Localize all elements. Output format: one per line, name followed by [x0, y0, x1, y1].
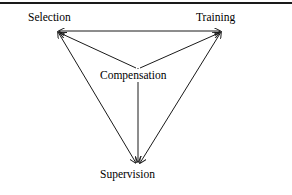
edge-selection-supervision [58, 32, 136, 163]
triangle-diagram-svg [0, 0, 292, 195]
edge-compensation-training [140, 33, 219, 68]
edge-compensation-selection [60, 33, 136, 68]
node-label-training: Training [196, 11, 235, 24]
edge-training-supervision [140, 32, 221, 163]
node-label-compensation: Compensation [99, 69, 167, 82]
figure-container: Selection Training Compensation Supervis… [0, 0, 292, 195]
node-label-supervision: Supervision [100, 168, 155, 181]
node-label-selection: Selection [28, 11, 71, 24]
